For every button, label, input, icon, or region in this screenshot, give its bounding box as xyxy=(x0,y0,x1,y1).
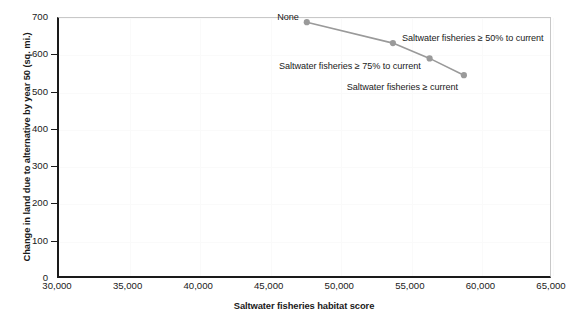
data-point-label: Saltwater fisheries ≥ 75% to current xyxy=(279,61,421,71)
gridline-vertical xyxy=(482,18,483,276)
y-tick-label: 200 xyxy=(0,198,48,208)
y-tick-label-text: 700 xyxy=(2,12,48,22)
gridline-horizontal xyxy=(59,18,550,19)
x-tick-label: 45,000 xyxy=(239,280,299,291)
y-tick-label: 700 xyxy=(0,12,48,22)
gridline-vertical xyxy=(271,18,272,276)
data-point-label: None xyxy=(277,12,299,22)
gridline-horizontal xyxy=(59,93,550,94)
gridline-horizontal xyxy=(59,242,550,243)
y-tick-label-text: 100 xyxy=(2,236,48,246)
gridline-vertical xyxy=(341,18,342,276)
gridline-horizontal xyxy=(59,167,550,168)
y-tick-label: 600 xyxy=(0,49,48,59)
gridline-vertical xyxy=(412,18,413,276)
x-tick-label: 50,000 xyxy=(309,280,369,291)
x-tick-label: 30,000 xyxy=(27,280,87,291)
gridline-vertical xyxy=(200,18,201,276)
gridline-vertical xyxy=(130,18,131,276)
data-point-label: Saltwater fisheries ≥ current xyxy=(347,82,458,92)
y-tick-label-text: 200 xyxy=(2,198,48,208)
x-tick-label: 35,000 xyxy=(98,280,158,291)
y-tick-label-text: 400 xyxy=(2,124,48,134)
y-tick-label-text: 500 xyxy=(2,87,48,97)
gridline-horizontal xyxy=(59,130,550,131)
chart-container: Change in land due to alternative by yea… xyxy=(0,0,572,320)
x-tick-label: 60,000 xyxy=(450,280,510,291)
y-tick-label-text: 300 xyxy=(2,161,48,171)
x-tick-label: 55,000 xyxy=(380,280,440,291)
x-tick-label: 65,000 xyxy=(521,280,572,291)
y-tick-label: 100 xyxy=(0,236,48,246)
x-axis-title: Saltwater fisheries habitat score xyxy=(57,300,551,311)
data-point-label: Saltwater fisheries ≥ 50% to current xyxy=(402,33,544,43)
y-tick-label-text: 600 xyxy=(2,49,48,59)
gridline-horizontal xyxy=(59,204,550,205)
gridline-vertical xyxy=(553,18,554,276)
y-tick-label: 500 xyxy=(0,87,48,97)
y-tick-label: 300 xyxy=(0,161,48,171)
plot-area xyxy=(57,17,551,278)
y-axis-title: Change in land due to alternative by yea… xyxy=(18,2,36,292)
x-tick-label: 40,000 xyxy=(168,280,228,291)
y-tick-label: 400 xyxy=(0,124,48,134)
gridline-horizontal xyxy=(59,55,550,56)
